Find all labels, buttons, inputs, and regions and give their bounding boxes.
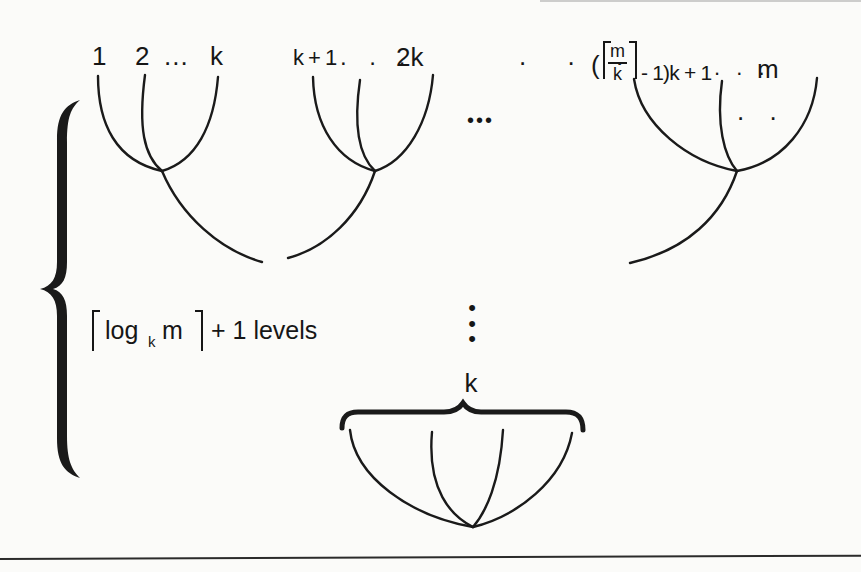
scan-artifact-line (540, 0, 861, 2)
tree1-branch-right (162, 77, 218, 171)
bottom-branch-3 (473, 430, 503, 527)
tree3-label-after-fraction: - 1)k + 1 (641, 62, 711, 83)
bottom-branch-2 (431, 432, 473, 527)
levels-log-text: log (105, 318, 138, 343)
fanin-overbrace (342, 403, 583, 430)
tree2-branch-mid (357, 80, 375, 171)
vertical-ellipsis-dot: • (468, 331, 476, 347)
tree2-trunk (288, 171, 375, 258)
ceiling-right-bracket (195, 310, 203, 351)
tree1-ellipsis: ... (164, 43, 189, 69)
tree3-branch-mid (720, 81, 737, 171)
tree1-leaf-label-1: 1 (92, 43, 106, 69)
tree3-leaf-label-m: m (757, 56, 779, 82)
fraction-denominator: k (613, 64, 622, 83)
tree2-branch-right (375, 75, 433, 171)
diagram-canvas (0, 0, 861, 572)
between-trees-bold-ellipsis: ••• (467, 110, 494, 130)
levels-suffix-text: + 1 levels (211, 318, 317, 343)
bottom-branch-4 (473, 433, 572, 527)
tree1-leaf-label-2: 2 (135, 43, 149, 69)
bottom-tree (350, 430, 572, 527)
tree1-branch-mid (142, 75, 162, 171)
tree3-inner-ellipsis: . . (737, 98, 786, 124)
fraction-numerator: m (608, 42, 627, 64)
ceiling-left-bracket (92, 310, 100, 351)
figure-selection-tree-diagram: 1 2 ... k k + 1 . . . 2k . . . ••• ( m k… (0, 0, 861, 572)
tree2-leaf-label-first: k + 1 (293, 47, 336, 69)
tree1-trunk (162, 171, 262, 262)
m-over-k-fraction: m k (608, 42, 627, 83)
vertical-ellipsis: • • • (465, 300, 479, 347)
tree-3 (630, 78, 817, 263)
levels-log-subscript: k (148, 334, 156, 349)
tree3-open-paren: ( (591, 52, 600, 78)
levels-log-argument: m (162, 318, 183, 343)
levels-left-brace (40, 100, 80, 478)
fanin-count-label: k (458, 370, 484, 396)
tree3-trunk (630, 171, 737, 263)
ceiling-right-bracket (629, 41, 637, 79)
tree2-leaf-label-last: 2k (396, 44, 423, 70)
tree-1 (98, 75, 262, 262)
tree-2 (288, 75, 433, 258)
tree1-leaf-label-k: k (210, 43, 223, 69)
tree1-branch-left (98, 76, 162, 171)
